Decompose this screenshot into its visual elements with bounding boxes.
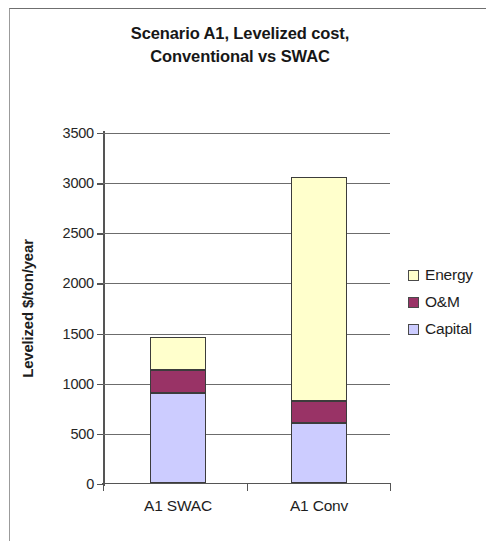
y-axis-tick-mark — [97, 384, 103, 385]
legend-label: Energy — [425, 266, 473, 284]
legend-item[interactable]: Capital — [408, 320, 473, 338]
y-axis-tick-label: 500 — [70, 426, 94, 442]
bar-segment-om[interactable] — [291, 401, 347, 423]
bar-segment-energy[interactable] — [291, 177, 347, 401]
y-axis-tick-mark — [97, 334, 103, 335]
y-axis-title-text: Levelized $/ton/year — [19, 239, 36, 378]
legend-label: O&M — [425, 293, 460, 311]
legend-item[interactable]: Energy — [408, 266, 473, 284]
chart-legend: EnergyO&MCapital — [408, 266, 473, 338]
bar-stack[interactable] — [291, 132, 347, 483]
plot-area: 3500300025002000150010005000 — [103, 133, 390, 484]
y-axis-tick-mark — [97, 133, 103, 134]
bar-segment-capital[interactable] — [291, 423, 347, 483]
y-axis-tick-mark — [97, 283, 103, 284]
chart-title-line-1: Scenario A1, Levelized cost, — [20, 22, 460, 45]
legend-swatch-icon — [408, 324, 419, 335]
bar-segment-om[interactable] — [150, 370, 206, 393]
bar-segment-energy[interactable] — [150, 337, 206, 371]
x-axis-tick-mark — [390, 484, 391, 491]
legend-swatch-icon — [408, 270, 419, 281]
bar-stack[interactable] — [150, 132, 206, 483]
y-axis-tick-label: 1500 — [63, 326, 94, 342]
x-axis-tick-mark — [247, 484, 248, 491]
x-axis-category-label: A1 SWAC — [108, 497, 248, 515]
bar-segment-capital[interactable] — [150, 393, 206, 483]
x-axis-tick-mark — [103, 484, 104, 491]
chart-title-line-2: Conventional vs SWAC — [20, 45, 460, 68]
y-axis-tick-mark — [97, 434, 103, 435]
y-axis-tick-label: 3500 — [63, 125, 94, 141]
x-axis-category-label: A1 Conv — [249, 497, 389, 515]
legend-label: Capital — [425, 320, 472, 338]
y-axis-tick-label: 1000 — [63, 376, 94, 392]
y-axis-tick-label: 2500 — [63, 225, 94, 241]
chart-title: Scenario A1, Levelized cost, Conventiona… — [20, 22, 460, 69]
legend-item[interactable]: O&M — [408, 293, 473, 311]
y-axis-tick-label: 0 — [86, 476, 94, 492]
y-axis-tick-label: 3000 — [63, 175, 94, 191]
legend-swatch-icon — [408, 297, 419, 308]
y-axis-tick-mark — [97, 233, 103, 234]
y-axis-line — [103, 131, 105, 486]
y-axis-title: Levelized $/ton/year — [16, 133, 38, 484]
y-axis-tick-mark — [97, 183, 103, 184]
y-axis-tick-label: 2000 — [63, 275, 94, 291]
